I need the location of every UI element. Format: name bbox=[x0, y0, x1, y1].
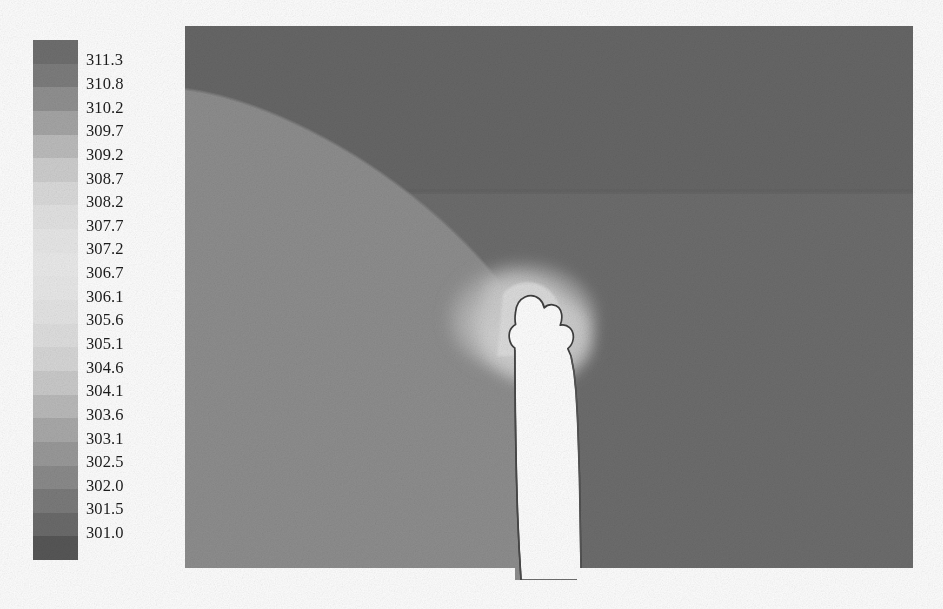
colorbar-band-13 bbox=[33, 347, 78, 371]
colorbar-tick-309-7: 309.7 bbox=[86, 123, 124, 140]
colorbar-tick-302-5: 302.5 bbox=[86, 454, 124, 471]
colorbar-band-9 bbox=[33, 253, 78, 277]
colorbar-band-3 bbox=[33, 111, 78, 135]
colorbar-band-14 bbox=[33, 371, 78, 395]
figure-container: 311.3310.8310.2309.7309.2308.7308.2307.7… bbox=[0, 0, 943, 609]
colorbar-tick-301-0: 301.0 bbox=[86, 525, 124, 542]
contour-field bbox=[185, 26, 913, 580]
contour-plot-svg bbox=[185, 26, 913, 580]
colorbar-band-18 bbox=[33, 466, 78, 490]
colorbar-tick-307-2: 307.2 bbox=[86, 241, 124, 258]
colorbar-tick-311-3: 311.3 bbox=[86, 52, 123, 69]
colorbar-tick-303-1: 303.1 bbox=[86, 431, 124, 448]
colorbar-tick-308-2: 308.2 bbox=[86, 194, 124, 211]
colorbar-band-6 bbox=[33, 182, 78, 206]
colorbar-band-7 bbox=[33, 205, 78, 229]
colorbar-band-1 bbox=[33, 64, 78, 88]
colorbar-tick-303-6: 303.6 bbox=[86, 407, 124, 424]
colorbar-tick-301-5: 301.5 bbox=[86, 501, 124, 518]
colorbar-tick-308-7: 308.7 bbox=[86, 171, 124, 188]
colorbar-tick-306-7: 306.7 bbox=[86, 265, 124, 282]
colorbar-band-16 bbox=[33, 418, 78, 442]
colorbar-band-5 bbox=[33, 158, 78, 182]
colorbar-tick-labels: 311.3310.8310.2309.7309.2308.7308.2307.7… bbox=[86, 40, 178, 560]
colorbar-tick-310-8: 310.8 bbox=[86, 76, 124, 93]
colorbar-band-0 bbox=[33, 40, 78, 64]
colorbar-band-19 bbox=[33, 489, 78, 513]
colorbar-tick-306-1: 306.1 bbox=[86, 289, 124, 306]
colorbar-band-8 bbox=[33, 229, 78, 253]
colorbar-band-17 bbox=[33, 442, 78, 466]
colorbar-tick-305-6: 305.6 bbox=[86, 312, 124, 329]
colorbar-band-11 bbox=[33, 300, 78, 324]
colorbar-strip bbox=[33, 40, 78, 560]
colorbar-tick-307-7: 307.7 bbox=[86, 218, 124, 235]
colorbar-band-21 bbox=[33, 536, 78, 560]
colorbar-tick-302-0: 302.0 bbox=[86, 478, 124, 495]
colorbar-band-4 bbox=[33, 135, 78, 159]
colorbar-band-10 bbox=[33, 276, 78, 300]
colorbar-tick-304-6: 304.6 bbox=[86, 360, 124, 377]
temperature-colorbar: 311.3310.8310.2309.7309.2308.7308.2307.7… bbox=[0, 0, 180, 609]
colorbar-tick-304-1: 304.1 bbox=[86, 383, 124, 400]
colorbar-band-15 bbox=[33, 395, 78, 419]
colorbar-band-2 bbox=[33, 87, 78, 111]
colorbar-band-20 bbox=[33, 513, 78, 537]
colorbar-tick-309-2: 309.2 bbox=[86, 147, 124, 164]
colorbar-tick-305-1: 305.1 bbox=[86, 336, 124, 353]
colorbar-tick-310-2: 310.2 bbox=[86, 100, 124, 117]
colorbar-band-12 bbox=[33, 324, 78, 348]
cavity-void bbox=[509, 296, 581, 580]
